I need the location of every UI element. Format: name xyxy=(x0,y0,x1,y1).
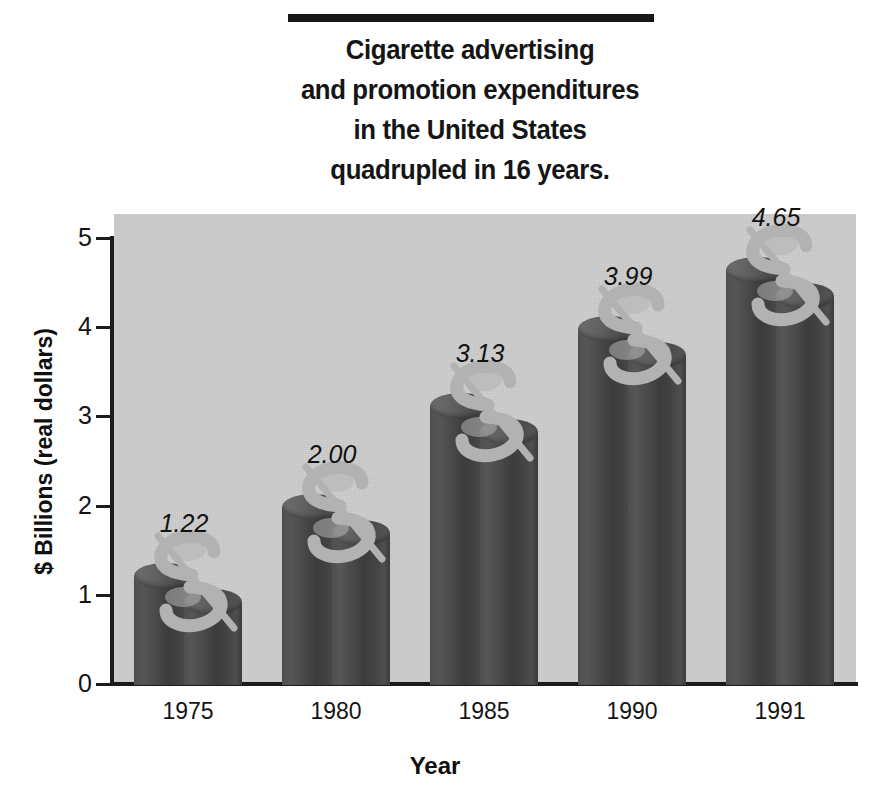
y-tick-label: 0 xyxy=(0,671,92,696)
plot-area xyxy=(114,214,856,685)
x-tick-label: 1980 xyxy=(268,700,404,723)
y-axis-line xyxy=(110,236,114,686)
cylinder-top-ellipse xyxy=(578,316,640,342)
y-tick-mark xyxy=(96,505,112,508)
x-tick-label: 1985 xyxy=(416,700,552,723)
cylinder-top-ellipse xyxy=(430,393,492,419)
x-tick-label: 1975 xyxy=(120,700,256,723)
title-line-4: quadrupled in 16 years. xyxy=(176,150,765,190)
title-rule-divider xyxy=(288,14,654,22)
title-line-2: and promotion expenditures xyxy=(176,70,765,110)
y-tick-label: 5 xyxy=(0,225,92,250)
bar-cylinder-front xyxy=(332,533,390,685)
cylinder-top-ellipse xyxy=(480,419,538,445)
cylinder-body xyxy=(332,533,390,685)
chart-figure: Cigarette advertising and promotion expe… xyxy=(0,0,870,808)
bar-group xyxy=(578,329,686,685)
cylinder-top-ellipse xyxy=(332,520,390,546)
bar-value-label: 3.13 xyxy=(426,341,534,366)
y-axis-title: $ Billions (real dollars) xyxy=(31,312,58,592)
cylinder-top-ellipse xyxy=(134,563,196,589)
y-tick-mark xyxy=(96,594,112,597)
bar-group xyxy=(134,576,242,685)
y-tick-mark xyxy=(96,415,112,418)
y-tick-mark xyxy=(96,683,112,686)
bar-cylinder-front xyxy=(776,296,834,685)
bar-value-label: 2.00 xyxy=(278,442,386,467)
cylinder-top-ellipse xyxy=(628,342,686,368)
cylinder-body xyxy=(776,296,834,685)
bar-value-label: 1.22 xyxy=(130,511,238,536)
bar-group xyxy=(282,507,390,685)
x-tick-label: 1991 xyxy=(712,700,848,723)
title-line-3: in the United States xyxy=(176,110,765,150)
y-tick-mark xyxy=(96,326,112,329)
cylinder-top-ellipse xyxy=(282,494,344,520)
title-line-1: Cigarette advertising xyxy=(176,30,765,70)
bar-cylinder-front xyxy=(184,602,242,685)
cylinder-body xyxy=(628,355,686,685)
x-tick-label: 1990 xyxy=(564,700,700,723)
cylinder-top-ellipse xyxy=(184,589,242,615)
bar-cylinder-front xyxy=(628,355,686,685)
bar-value-label: 3.99 xyxy=(574,264,682,289)
bar-value-label: 4.65 xyxy=(722,205,830,230)
bar-group xyxy=(430,406,538,685)
bar-cylinder-front xyxy=(480,432,538,685)
cylinder-body xyxy=(480,432,538,685)
bar-group xyxy=(726,270,834,685)
x-axis-title: Year xyxy=(0,752,870,780)
chart-title: Cigarette advertising and promotion expe… xyxy=(150,30,790,190)
y-tick-mark xyxy=(96,237,112,240)
